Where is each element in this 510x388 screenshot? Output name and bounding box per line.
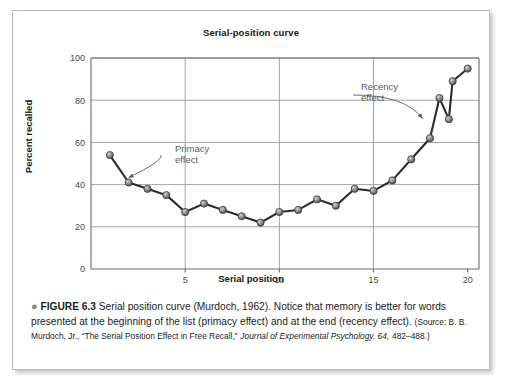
x-tick-label-15: 15 bbox=[369, 275, 379, 285]
data-point-marker bbox=[351, 185, 358, 192]
x-tick-label-20: 20 bbox=[463, 275, 473, 285]
y-tick-label-0: 0 bbox=[80, 264, 85, 274]
data-point-marker bbox=[257, 219, 264, 226]
annotation-primacy-arrow bbox=[129, 155, 161, 177]
data-point-marker bbox=[464, 65, 471, 72]
data-point-marker bbox=[449, 78, 456, 85]
y-tick-label-100: 100 bbox=[70, 53, 85, 63]
figure-number: FIGURE 6.3 bbox=[41, 301, 96, 312]
data-point-marker bbox=[445, 116, 452, 123]
data-point-marker bbox=[238, 213, 245, 220]
data-point-marker bbox=[436, 94, 443, 101]
data-point-marker bbox=[163, 192, 170, 199]
data-point-marker bbox=[200, 200, 207, 207]
series-line bbox=[110, 69, 468, 223]
gridlines-group bbox=[91, 58, 479, 269]
data-point-marker bbox=[125, 179, 132, 186]
y-tick-labels: 020406080100 bbox=[70, 53, 85, 274]
annotation-primacy-line2: effect bbox=[175, 154, 198, 165]
data-point-marker bbox=[370, 187, 377, 194]
data-series-line bbox=[110, 69, 468, 223]
data-point-marker bbox=[408, 156, 415, 163]
data-point-marker bbox=[276, 208, 283, 215]
caption-bullet-icon: ● bbox=[31, 300, 38, 312]
data-point-marker bbox=[389, 177, 396, 184]
y-tick-label-80: 80 bbox=[75, 96, 85, 106]
data-point-marker bbox=[182, 208, 189, 215]
annotations-group: PrimacyeffectRecencyeffect bbox=[129, 81, 423, 177]
data-point-marker bbox=[144, 185, 151, 192]
serial-position-plot: 020406080100 5101520 PrimacyeffectRecenc… bbox=[13, 11, 489, 296]
y-tick-label-20: 20 bbox=[75, 222, 85, 232]
figure-frame: Serial-position curve Percent recalled S… bbox=[12, 10, 490, 370]
data-point-marker bbox=[219, 206, 226, 213]
annotation-primacy-line1: Primacy bbox=[175, 143, 210, 154]
axis-lines bbox=[91, 58, 479, 273]
caption-source-pages: 482–488.) bbox=[392, 331, 430, 341]
x-tick-labels: 5101520 bbox=[183, 275, 473, 285]
data-point-marker bbox=[426, 135, 433, 142]
data-point-marker bbox=[332, 202, 339, 209]
y-tick-label-60: 60 bbox=[75, 138, 85, 148]
data-point-marker bbox=[295, 206, 302, 213]
data-markers bbox=[106, 65, 471, 226]
y-tick-label-40: 40 bbox=[75, 180, 85, 190]
caption-source-journal: Journal of Experimental Psychology, 64, bbox=[240, 331, 389, 341]
x-tick-label-10: 10 bbox=[274, 275, 284, 285]
data-point-marker bbox=[106, 151, 113, 158]
chart-region: Serial-position curve Percent recalled S… bbox=[13, 11, 489, 296]
annotation-recency-line1: Recency bbox=[361, 81, 398, 92]
data-point-marker bbox=[313, 196, 320, 203]
figure-caption: ● FIGURE 6.3 Serial position curve (Murd… bbox=[31, 299, 473, 344]
x-tick-label-5: 5 bbox=[183, 275, 188, 285]
